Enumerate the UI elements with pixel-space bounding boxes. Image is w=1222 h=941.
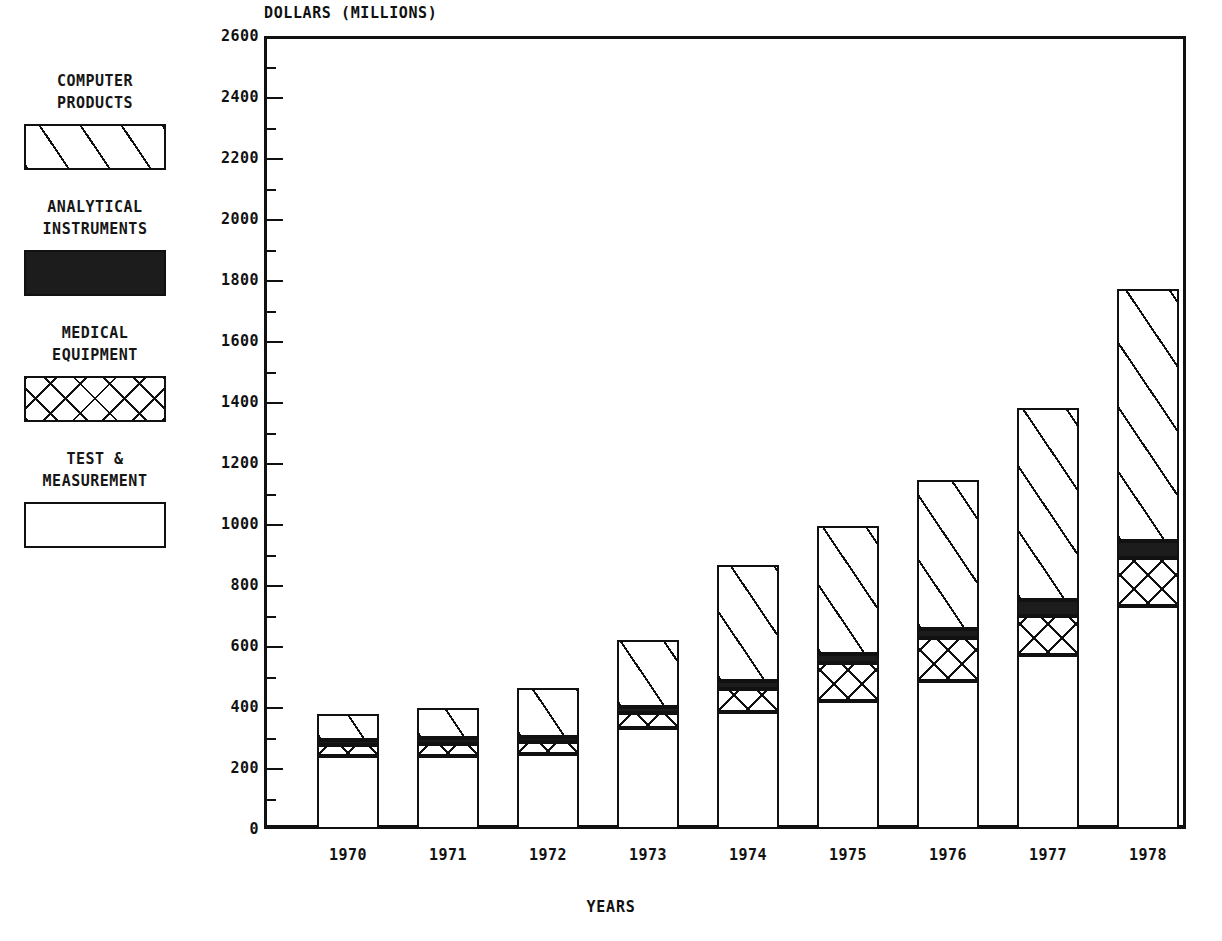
legend-label-line1: TEST & [0, 448, 190, 470]
x-tick-label: 1977 [1029, 846, 1067, 864]
y-axis-title: DOLLARS (MILLIONS) [264, 4, 437, 22]
y-tick-label: 600 [230, 637, 259, 655]
y-axis-tick-labels: 0200400600800100012001400160018002000220… [185, 0, 259, 941]
y-tick-label: 1000 [221, 515, 259, 533]
bar-segment-analytical-instruments[interactable] [817, 654, 879, 663]
bar-group[interactable] [317, 36, 379, 829]
bar-group[interactable] [1017, 36, 1079, 829]
bar-segment-analytical-instruments[interactable] [1017, 600, 1079, 615]
chart-legend: COMPUTER PRODUCTS ANALYTICAL INSTRUMENTS… [0, 70, 190, 574]
bar-group[interactable] [717, 36, 779, 829]
legend-label-line2: INSTRUMENTS [0, 218, 190, 240]
y-tick-label: 800 [230, 576, 259, 594]
bar-segment-medical-equipment[interactable] [917, 638, 979, 681]
bar-group[interactable] [817, 36, 879, 829]
y-tick-label: 2600 [221, 27, 259, 45]
bar-segment-medical-equipment[interactable] [517, 742, 579, 754]
bar-segment-computer-products[interactable] [1017, 408, 1079, 600]
bar-segment-medical-equipment[interactable] [817, 663, 879, 701]
legend-swatch-diagonal [24, 124, 166, 170]
x-tick-label: 1972 [529, 846, 567, 864]
legend-label-line2: MEASUREMENT [0, 470, 190, 492]
bar-segment-computer-products[interactable] [317, 714, 379, 740]
bar-segment-medical-equipment[interactable] [417, 744, 479, 756]
legend-label-line2: EQUIPMENT [0, 344, 190, 366]
x-tick-label: 1975 [829, 846, 867, 864]
x-tick-label: 1971 [429, 846, 467, 864]
y-tick-label: 400 [230, 698, 259, 716]
bar-segment-test-measurement[interactable] [1117, 606, 1179, 829]
bar-segment-test-measurement[interactable] [717, 712, 779, 829]
bar-segment-test-measurement[interactable] [517, 754, 579, 829]
legend-label-line1: COMPUTER [0, 70, 190, 92]
bar-segment-analytical-instruments[interactable] [417, 738, 479, 743]
legend-label-line1: ANALYTICAL [0, 196, 190, 218]
y-tick-label: 2000 [221, 210, 259, 228]
y-tick-label: 1400 [221, 393, 259, 411]
bar-segment-medical-equipment[interactable] [317, 745, 379, 756]
bar-segment-test-measurement[interactable] [417, 756, 479, 829]
legend-label-line2: PRODUCTS [0, 92, 190, 114]
y-tick-label: 200 [230, 759, 259, 777]
legend-item-test-measurement: TEST & MEASUREMENT [0, 448, 190, 548]
bar-segment-computer-products[interactable] [717, 565, 779, 681]
bar-group[interactable] [917, 36, 979, 829]
legend-swatch-empty [24, 502, 166, 548]
y-tick-label: 2400 [221, 88, 259, 106]
bar-group[interactable] [1117, 36, 1179, 829]
legend-item-analytical-instruments: ANALYTICAL INSTRUMENTS [0, 196, 190, 296]
legend-item-computer-products: COMPUTER PRODUCTS [0, 70, 190, 170]
x-tick-label: 1976 [929, 846, 967, 864]
bar-segment-analytical-instruments[interactable] [917, 629, 979, 638]
x-tick-label: 1973 [629, 846, 667, 864]
bar-segment-medical-equipment[interactable] [717, 689, 779, 712]
y-tick-label: 2200 [221, 149, 259, 167]
bar-segment-computer-products[interactable] [517, 688, 579, 737]
bar-segment-test-measurement[interactable] [317, 756, 379, 829]
bar-segment-test-measurement[interactable] [917, 681, 979, 829]
legend-swatch-cross-hatch [24, 376, 166, 422]
y-tick-label: 1600 [221, 332, 259, 350]
bar-segment-analytical-instruments[interactable] [517, 737, 579, 742]
x-tick-label: 1970 [329, 846, 367, 864]
bars-layer [264, 36, 1186, 829]
y-tick-label: 1200 [221, 454, 259, 472]
bar-segment-analytical-instruments[interactable] [1117, 541, 1179, 558]
bar-segment-computer-products[interactable] [917, 480, 979, 629]
bar-segment-medical-equipment[interactable] [1017, 616, 1079, 656]
bar-segment-computer-products[interactable] [1117, 289, 1179, 541]
x-axis-title: YEARS [0, 898, 1222, 916]
bar-segment-test-measurement[interactable] [617, 728, 679, 829]
legend-label-line1: MEDICAL [0, 322, 190, 344]
bar-group[interactable] [617, 36, 679, 829]
y-tick-label: 0 [249, 820, 259, 838]
bar-segment-analytical-instruments[interactable] [617, 707, 679, 713]
bar-segment-computer-products[interactable] [617, 640, 679, 707]
bar-group[interactable] [517, 36, 579, 829]
y-tick-label: 1800 [221, 271, 259, 289]
bar-segment-computer-products[interactable] [817, 526, 879, 654]
bar-group[interactable] [417, 36, 479, 829]
bar-segment-test-measurement[interactable] [817, 701, 879, 829]
legend-swatch-solid [24, 250, 166, 296]
bar-segment-computer-products[interactable] [417, 708, 479, 739]
x-tick-label: 1974 [729, 846, 767, 864]
x-tick-label: 1978 [1129, 846, 1167, 864]
legend-item-medical-equipment: MEDICAL EQUIPMENT [0, 322, 190, 422]
bar-segment-analytical-instruments[interactable] [717, 681, 779, 689]
bar-segment-medical-equipment[interactable] [617, 713, 679, 728]
bar-segment-test-measurement[interactable] [1017, 655, 1079, 829]
bar-segment-medical-equipment[interactable] [1117, 558, 1179, 607]
bar-segment-analytical-instruments[interactable] [317, 740, 379, 745]
